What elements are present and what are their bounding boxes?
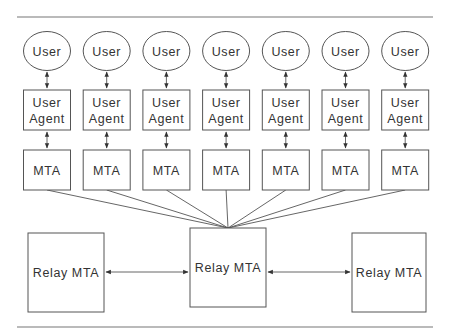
mta-label: MTA [212, 164, 239, 178]
mta-label: MTA [153, 164, 180, 178]
mta-label: MTA [93, 164, 120, 178]
mta-label: MTA [33, 164, 60, 178]
user-label: User [152, 45, 181, 59]
user-agent-label-line2: Agent [387, 112, 423, 126]
user-agent-label-line1: User [212, 96, 241, 110]
mta-label: MTA [392, 164, 419, 178]
user-label: User [271, 45, 300, 59]
user-label: User [212, 45, 241, 59]
user-agent-label-line1: User [331, 96, 360, 110]
mail-architecture-diagram: UserUserAgentMTAUserUserAgentMTAUserUser… [0, 0, 453, 330]
mta-to-relay-line [228, 190, 405, 228]
relay-mta-center: Relay MTA [190, 228, 266, 307]
mta-to-relay-line [228, 190, 346, 228]
user-agent-label-line2: Agent [268, 112, 304, 126]
user-label: User [33, 45, 62, 59]
relay-mta-left: Relay MTA [28, 233, 104, 312]
mta-label: MTA [272, 164, 299, 178]
relay-mta-center-label: Relay MTA [195, 261, 261, 275]
user-agent-label-line1: User [92, 96, 121, 110]
mta-to-relay-line [226, 190, 228, 228]
user-label: User [92, 45, 121, 59]
relay-mta-right: Relay MTA [352, 233, 426, 312]
user-agent-label-line1: User [391, 96, 420, 110]
column-4: UserUserAgentMTA [203, 32, 250, 229]
mta-label: MTA [332, 164, 359, 178]
mta-to-relay-line [166, 190, 228, 228]
user-columns: UserUserAgentMTAUserUserAgentMTAUserUser… [24, 32, 429, 229]
user-label: User [391, 45, 420, 59]
user-agent-label-line1: User [33, 96, 62, 110]
relay-mta-left-label: Relay MTA [33, 266, 99, 280]
mta-to-relay-line [47, 190, 228, 228]
relay-mta-right-label: Relay MTA [356, 266, 422, 280]
user-label: User [331, 45, 360, 59]
mta-to-relay-line [107, 190, 228, 228]
user-agent-label-line2: Agent [89, 112, 125, 126]
user-agent-label-line2: Agent [149, 112, 185, 126]
user-agent-label-line2: Agent [29, 112, 65, 126]
user-agent-label-line1: User [152, 96, 181, 110]
user-agent-label-line2: Agent [208, 112, 244, 126]
user-agent-label-line2: Agent [328, 112, 364, 126]
user-agent-label-line1: User [271, 96, 300, 110]
mta-to-relay-line [228, 190, 286, 228]
